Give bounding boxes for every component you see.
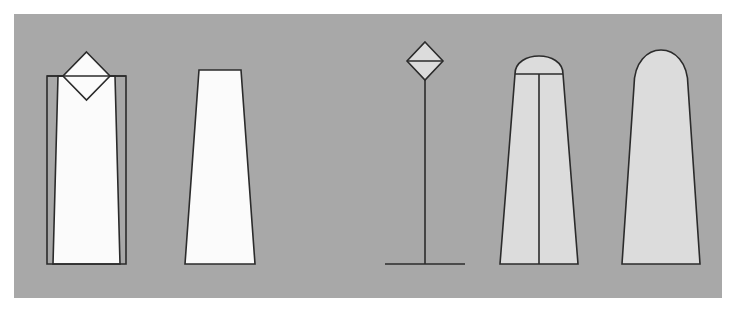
figure-2-plain-taper bbox=[185, 70, 255, 264]
figure-5-profile bbox=[622, 50, 700, 264]
screenshot-root bbox=[0, 0, 738, 320]
figure-panel bbox=[14, 14, 722, 298]
figure-5-domed-taper-plain bbox=[622, 50, 700, 264]
figure-1-profile bbox=[53, 76, 120, 264]
profiles-diagram bbox=[14, 14, 722, 298]
figure-3-diamond-on-pole bbox=[385, 42, 465, 264]
figure-4-domed-taper-split bbox=[500, 56, 578, 264]
figure-1-boxed-taper-with-diamond bbox=[47, 52, 126, 264]
figure-2-profile bbox=[185, 70, 255, 264]
